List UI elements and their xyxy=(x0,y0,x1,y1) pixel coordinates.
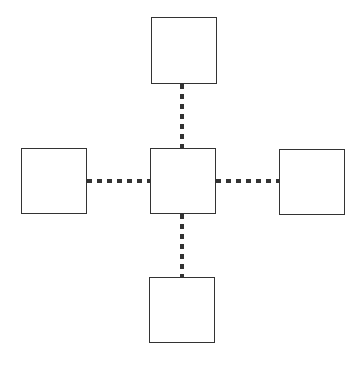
node-right xyxy=(279,149,345,215)
edge-center-bottom xyxy=(180,214,184,277)
node-left xyxy=(21,148,87,214)
edge-center-top xyxy=(180,84,184,148)
edge-center-right xyxy=(216,179,279,183)
edge-center-left xyxy=(87,179,150,183)
node-center xyxy=(150,148,216,214)
node-bottom xyxy=(149,277,215,343)
node-top xyxy=(151,17,217,84)
